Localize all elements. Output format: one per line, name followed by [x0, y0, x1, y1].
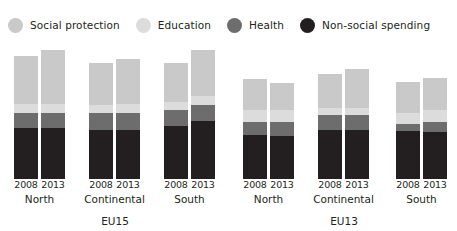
bar-segment-education [14, 104, 38, 113]
legend-item-social_protection[interactable]: Social protection [8, 18, 120, 33]
legend-label: Non-social spending [322, 20, 430, 31]
bar-segment-non_social [41, 128, 65, 179]
bar-segment-education [41, 104, 65, 113]
bar-group-eu15-north [14, 42, 65, 179]
axis-year-label: 2013 [345, 179, 369, 191]
axis-year-label: 2013 [423, 179, 447, 191]
bar-segment-non_social [191, 121, 215, 180]
axis-group-eu15-south: 20082013South [146, 179, 233, 206]
bar-eu15-south-2008[interactable] [164, 63, 188, 179]
bar-eu13-south-2008[interactable] [396, 82, 420, 179]
axis-year-row: 20082013 [225, 179, 312, 191]
bar-segment-education [345, 108, 369, 116]
axis-year-label: 2008 [318, 179, 342, 191]
axis-year-row: 20082013 [300, 179, 387, 191]
bar-segment-social_protection [396, 82, 420, 113]
axis-year-row: 20082013 [146, 179, 233, 191]
bar-group-eu15-south [164, 42, 215, 179]
bar-segment-non_social [396, 131, 420, 179]
chart-x-axis: 20082013North20082013Continental20082013… [0, 179, 457, 231]
bar-segment-non_social [243, 135, 267, 179]
bar-segment-education [318, 108, 342, 116]
bar-segment-education [191, 96, 215, 105]
bar-segment-education [89, 105, 113, 113]
bar-segment-social_protection [41, 50, 65, 103]
bar-eu15-continental-2013[interactable] [116, 59, 140, 179]
bar-segment-non_social [14, 128, 38, 179]
bar-segment-non_social [116, 130, 140, 179]
legend-item-health[interactable]: Health [227, 18, 284, 33]
bar-eu13-south-2013[interactable] [423, 78, 447, 179]
axis-region-label: South [378, 193, 457, 206]
axis-region-label: Continental [300, 193, 387, 206]
axis-region-label: South [146, 193, 233, 206]
axis-year-label: 2013 [116, 179, 140, 191]
legend-label: Health [249, 20, 284, 31]
bar-eu15-continental-2008[interactable] [89, 63, 113, 179]
bar-eu15-north-2008[interactable] [14, 56, 38, 179]
bar-segment-health [270, 122, 294, 136]
axis-group-eu13-continental: 20082013Continental [300, 179, 387, 206]
legend-swatch-social_protection-icon [8, 18, 23, 33]
legend-item-education[interactable]: Education [136, 18, 211, 33]
bar-segment-health [191, 105, 215, 121]
bar-segment-social_protection [14, 56, 38, 104]
bar-segment-social_protection [191, 50, 215, 96]
axis-year-row: 20082013 [71, 179, 158, 191]
chart-plot-area [0, 42, 457, 179]
axis-year-label: 2008 [396, 179, 420, 191]
bar-segment-health [14, 113, 38, 129]
bar-segment-education [164, 102, 188, 110]
legend-swatch-education-icon [136, 18, 151, 33]
axis-year-label: 2013 [41, 179, 65, 191]
axis-year-label: 2008 [89, 179, 113, 191]
axis-group-eu13-north: 20082013North [225, 179, 312, 206]
bar-segment-non_social [164, 126, 188, 179]
bar-segment-non_social [270, 136, 294, 179]
axis-supergroup-label-eu13: EU13 [304, 215, 384, 228]
bar-eu13-continental-2008[interactable] [318, 74, 342, 179]
axis-region-label: Continental [71, 193, 158, 206]
axis-year-label: 2013 [270, 179, 294, 191]
bar-segment-health [116, 113, 140, 130]
bar-segment-social_protection [116, 59, 140, 103]
bar-segment-social_protection [164, 63, 188, 102]
bar-segment-health [423, 122, 447, 132]
bar-segment-social_protection [243, 79, 267, 110]
bar-segment-non_social [345, 130, 369, 179]
bar-segment-education [396, 113, 420, 125]
legend-label: Social protection [30, 20, 120, 31]
axis-year-label: 2008 [164, 179, 188, 191]
legend-swatch-health-icon [227, 18, 242, 33]
bar-segment-social_protection [423, 78, 447, 111]
bar-segment-health [318, 115, 342, 129]
bar-segment-non_social [89, 130, 113, 179]
bar-eu13-north-2008[interactable] [243, 79, 267, 179]
bar-eu13-continental-2013[interactable] [345, 69, 369, 179]
axis-year-label: 2008 [243, 179, 267, 191]
bar-segment-social_protection [89, 63, 113, 105]
axis-group-eu13-south: 20082013South [378, 179, 457, 206]
bar-segment-health [345, 115, 369, 129]
bar-segment-health [41, 113, 65, 129]
bar-segment-education [423, 110, 447, 122]
bar-segment-non_social [423, 132, 447, 179]
bar-segment-education [270, 110, 294, 122]
axis-supergroup-label-eu15: EU15 [75, 215, 155, 228]
bar-segment-social_protection [345, 69, 369, 108]
bar-segment-education [243, 110, 267, 122]
bar-segment-non_social [318, 130, 342, 179]
axis-group-eu15-continental: 20082013Continental [71, 179, 158, 206]
bar-segment-health [243, 122, 267, 135]
bar-eu15-south-2013[interactable] [191, 50, 215, 179]
bar-segment-social_protection [318, 74, 342, 108]
bar-group-eu13-south [396, 42, 447, 179]
bar-group-eu13-continental [318, 42, 369, 179]
axis-year-label: 2008 [14, 179, 38, 191]
bar-group-eu13-north [243, 42, 294, 179]
bar-segment-health [89, 113, 113, 130]
bar-group-eu15-continental [89, 42, 140, 179]
legend-item-non_social[interactable]: Non-social spending [300, 18, 430, 33]
bar-eu13-north-2013[interactable] [270, 83, 294, 179]
bar-eu15-north-2013[interactable] [41, 50, 65, 179]
